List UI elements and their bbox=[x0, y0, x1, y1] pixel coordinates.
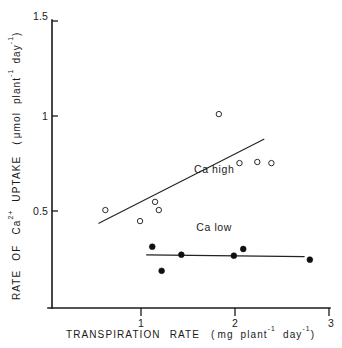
ylabel-open-paren: ( bbox=[11, 140, 22, 144]
series-ca-high bbox=[99, 111, 274, 223]
xlabel-open-paren: ( bbox=[211, 329, 215, 340]
xlabel-close-paren: ) bbox=[311, 329, 315, 340]
x-tick-label-3: 3 bbox=[328, 317, 334, 329]
series-ca-low bbox=[147, 244, 313, 274]
data-point bbox=[269, 160, 274, 165]
ylabel-unit3-sup: -1 bbox=[7, 36, 14, 44]
data-point bbox=[231, 253, 237, 259]
y-tick-label-0.5: 0.5 bbox=[33, 205, 48, 217]
ylabel-word1: RATE bbox=[11, 270, 22, 300]
data-point bbox=[255, 159, 260, 164]
data-point bbox=[152, 199, 157, 204]
x-tick-label-1: 1 bbox=[138, 317, 144, 329]
series-label-ca-high: Ca high bbox=[194, 163, 234, 175]
x-tick-label-2: 2 bbox=[232, 317, 238, 329]
series-label-ca-low: Ca low bbox=[196, 221, 232, 233]
ylabel-unit3: day bbox=[11, 44, 22, 63]
scatter-plot-svg: 1.5 1 0.5 1 2 3 TRANSPIRATIONRATE(mgplan… bbox=[0, 0, 342, 348]
x-axis-title: TRANSPIRATIONRATE(mgplant-1day-1) bbox=[66, 325, 315, 341]
series-annotation-layer: Ca highCa low bbox=[194, 163, 234, 233]
ylabel-unit1: μmol bbox=[11, 112, 22, 138]
regression-line-2 bbox=[147, 255, 305, 257]
data-point bbox=[178, 252, 184, 258]
xlabel-unit3-sup: -1 bbox=[302, 325, 310, 332]
data-series-layer bbox=[99, 111, 313, 273]
ylabel-ion: Ca bbox=[11, 220, 22, 235]
data-point bbox=[156, 207, 161, 212]
xlabel-unit2-sup: -1 bbox=[268, 325, 276, 332]
data-point bbox=[159, 268, 165, 274]
axes-group bbox=[48, 20, 330, 308]
data-point bbox=[103, 207, 108, 212]
data-point bbox=[240, 246, 246, 252]
xlabel-unit3: day bbox=[283, 329, 302, 340]
xlabel-unit2: plant bbox=[241, 329, 268, 340]
ylabel-word3: UPTAKE bbox=[11, 156, 22, 202]
svg-text:TRANSPIRATIONRATE(mgplant-1day: TRANSPIRATIONRATE(mgplant-1day-1) bbox=[66, 325, 315, 341]
chart-figure: 1.5 1 0.5 1 2 3 TRANSPIRATIONRATE(mgplan… bbox=[0, 0, 342, 348]
ylabel-ion-sup: 2+ bbox=[7, 210, 14, 220]
data-point bbox=[237, 160, 242, 165]
y-axis-ticks: 1.5 1 0.5 bbox=[33, 10, 58, 217]
regression-line-1 bbox=[99, 139, 264, 223]
xlabel-word2: RATE bbox=[170, 329, 200, 340]
ylabel-word2: OF bbox=[11, 245, 22, 261]
y-tick-label-1.5: 1.5 bbox=[33, 10, 48, 22]
xlabel-unit1: mg bbox=[217, 329, 233, 340]
ylabel-unit2-sup: -1 bbox=[7, 69, 14, 77]
ylabel-close-paren: ) bbox=[11, 31, 22, 35]
xlabel-word1: TRANSPIRATION bbox=[66, 329, 161, 340]
data-point bbox=[216, 111, 221, 116]
ylabel-unit2: plant bbox=[11, 77, 22, 104]
y-axis-title: RATEOFCa2+UPTAKE(μmolplant-1day-1) bbox=[7, 31, 23, 300]
data-point bbox=[137, 218, 142, 223]
data-point bbox=[307, 257, 313, 263]
y-tick-label-1: 1 bbox=[42, 110, 48, 122]
svg-text:RATEOFCa2+UPTAKE(μmolplant-1da: RATEOFCa2+UPTAKE(μmolplant-1day-1) bbox=[7, 31, 23, 300]
data-point bbox=[149, 244, 155, 250]
